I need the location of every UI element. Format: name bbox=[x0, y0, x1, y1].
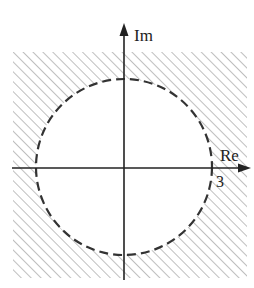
real-axis-label: Re bbox=[220, 146, 239, 165]
real-tick-label-3: 3 bbox=[216, 173, 224, 190]
complex-plane-diagram: Im Re 3 bbox=[0, 0, 254, 288]
imaginary-axis-label: Im bbox=[134, 26, 153, 45]
imaginary-axis-arrow-icon bbox=[120, 23, 129, 36]
